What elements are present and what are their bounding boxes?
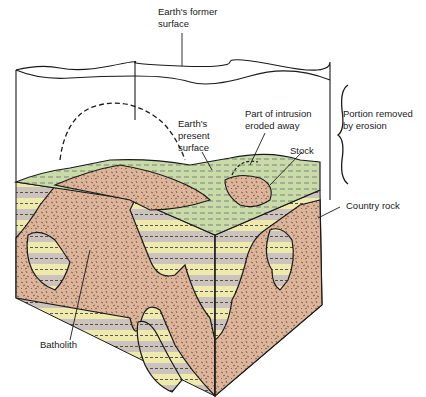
block-diagram [0, 0, 426, 397]
label-line: Part of intrusion [245, 108, 312, 120]
brace [338, 85, 348, 184]
label-line: surface [178, 142, 210, 154]
label-portion-removed: Portion removed by erosion [343, 108, 413, 132]
label-stock: Stock [290, 145, 314, 157]
label-line: Earth's [178, 118, 210, 130]
label-line: by erosion [343, 120, 413, 132]
label-line: surface [158, 18, 217, 30]
label-line: Portion removed [343, 108, 413, 120]
label-line: eroded away [245, 120, 312, 132]
label-line: present [178, 130, 210, 142]
label-former-surface: Earth's former surface [158, 6, 217, 30]
label-batholith: Batholith [40, 339, 77, 351]
label-eroded-away: Part of intrusion eroded away [245, 108, 312, 132]
eroded-intrusion-outline [60, 103, 185, 160]
label-present-surface: Earth's present surface [178, 118, 210, 154]
label-country-rock: Country rock [346, 200, 400, 212]
label-line: Earth's former [158, 6, 217, 18]
